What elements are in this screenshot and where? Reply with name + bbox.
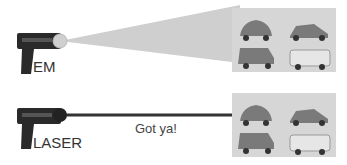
laser-caption: Got ya!: [135, 121, 177, 136]
vehicle-panel-em: [232, 8, 336, 72]
vehicles-icon: [232, 93, 336, 157]
em-emitter-dot: [53, 34, 67, 48]
vehicle-panel-laser: [232, 93, 336, 157]
em-beam: [50, 0, 240, 80]
laser-emitter-dot: [53, 108, 67, 122]
laser-label: LASER: [33, 135, 82, 150]
vehicles-icon: [232, 8, 336, 72]
